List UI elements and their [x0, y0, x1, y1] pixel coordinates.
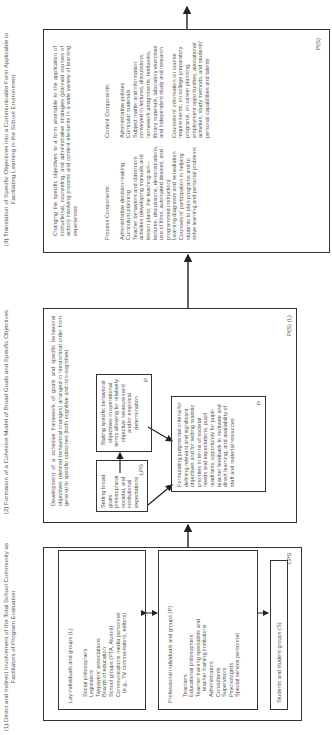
column2-header: (2) Formation of a Cohesive Model of Bro…: [2, 307, 9, 517]
list-item: teacher training institutions: [201, 557, 208, 697]
lay-groups-list: Social philosophers Legislators Taxpayer…: [82, 557, 128, 703]
column2-box: Development of a cohesive framework of g…: [43, 308, 297, 523]
criteria-tag: P: [256, 401, 262, 405]
list-item: Psychologists: [228, 557, 235, 697]
process-components-title: Process Components:: [104, 145, 111, 240]
column1-box: Lay individuals and groups (L) Social ph…: [43, 547, 302, 721]
criteria-text: Formulating judgmental criteria for defi…: [176, 401, 235, 487]
column3-header: (3) Translation of Specific Objectives i…: [2, 32, 16, 247]
column3-box: Changing the specific objectives to a fo…: [43, 29, 330, 253]
specific-objectives-text: Stating specific behavioral objectives i…: [100, 378, 140, 448]
professional-groups-title: Professional individuals and groups (P): [167, 557, 174, 703]
column1-tag: LPS: [286, 553, 292, 564]
lay-groups-box: Lay individuals and groups (L) Social ph…: [58, 550, 146, 710]
list-item: Communications media personnel: [115, 557, 122, 697]
professional-groups-list: Teachers Educational philosophers Teache…: [182, 557, 241, 703]
specific-objectives-tag: P: [143, 378, 149, 382]
broad-goals-box: Setting broad goals: philosophical socie…: [96, 460, 148, 512]
specific-objectives-box: Stating specific behavioral objectives i…: [96, 374, 152, 452]
process-components-list: Administrative decision-making Curriculu…: [119, 145, 198, 240]
criteria-box: Formulating judgmental criteria for defi…: [171, 396, 266, 492]
professional-groups-box: Professional individuals and groups (P) …: [158, 550, 258, 710]
content-components-list: Administrative policies Curricular mater…: [119, 38, 211, 138]
list-item: Taxpayers' associations: [95, 557, 102, 697]
list-item: Educational philosophers: [188, 557, 195, 697]
list-item: (e.g., TV commentators, editors): [121, 557, 128, 697]
list-item: Legislators: [88, 557, 95, 697]
lay-groups-title: Lay individuals and groups (L): [67, 557, 74, 703]
list-item: Administrators: [208, 557, 215, 697]
broad-goals-tag: LPS: [138, 464, 144, 475]
list-item: Curriculum planning: [125, 145, 132, 240]
column2-intro: Development of a cohesive framework of g…: [50, 316, 70, 506]
content-components: Content Components: Administrative polic…: [104, 38, 210, 138]
process-components: Process Components: Administrative decis…: [104, 145, 198, 240]
list-item: Supervisors: [221, 557, 228, 697]
list-item: Teacher training specialists and: [195, 557, 202, 697]
broad-goals-text: Setting broad goals: philosophical socie…: [100, 464, 140, 508]
list-item: Subject matter and information conveyed …: [132, 38, 165, 138]
list-item: Counselors' participation in helping stu…: [178, 145, 198, 240]
list-item: Teachers: [182, 557, 189, 697]
list-item: Learning diagnosis and remediation: [171, 145, 178, 240]
column3-tag: P(S): [315, 38, 321, 50]
students-groups-box: Students and student groups (S): [270, 560, 288, 710]
column3-intro: Changing the specific objectives to a fo…: [52, 46, 78, 236]
students-groups-title: Students and student groups (S): [276, 567, 283, 703]
column1-header: (1) Direct and Indirect Involvement of t…: [2, 537, 16, 735]
content-components-title: Content Components:: [104, 38, 111, 138]
list-item: Curricular materials: [125, 38, 132, 138]
column2-tag: P(S) (L): [286, 315, 292, 336]
list-item: Teacher behaviors and classroom activiti…: [132, 145, 172, 240]
list-item: Consultants: [215, 557, 222, 697]
list-item: Administrative decision-making: [119, 145, 126, 240]
list-item: Special service personnel: [234, 557, 241, 697]
list-item: Boards of education: [101, 557, 108, 697]
list-item: Administrative policies: [119, 38, 126, 138]
list-item: School groups (PTA, Alumni): [108, 557, 115, 697]
list-item: Counselors' information on course requir…: [171, 38, 211, 138]
list-item: Social philosophers: [82, 557, 89, 697]
